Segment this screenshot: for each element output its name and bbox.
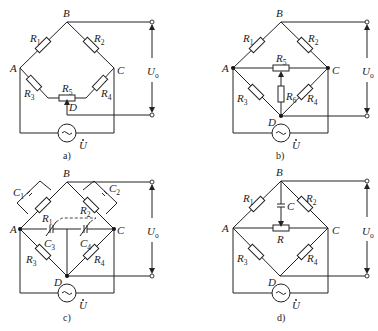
svg-text:R3: R3 (236, 92, 248, 107)
potentiometer-r (273, 225, 289, 231)
svg-text:C3: C3 (44, 237, 55, 252)
svg-text:R6: R6 (285, 90, 297, 105)
svg-text:C1: C1 (13, 186, 24, 201)
svg-text:A: A (221, 222, 229, 234)
svg-text:D: D (53, 276, 62, 288)
svg-text:B: B (276, 7, 283, 19)
svg-text:R1: R1 (242, 192, 254, 207)
node-a-label: A (9, 62, 17, 74)
panel-d: B A C D R1 R2 R3 R4 R C Uo U d) (221, 166, 374, 324)
node-b-label: B (63, 7, 70, 19)
svg-text:D: D (267, 276, 276, 288)
svg-text:C: C (332, 224, 340, 236)
svg-text:R3: R3 (236, 252, 248, 267)
svg-text:B: B (276, 166, 283, 178)
svg-text:C2: C2 (109, 182, 120, 197)
panel-b: B A C D R1 R2 R3 R4 R5 R6 Uo U b) (221, 7, 374, 162)
node-c-label: C (117, 64, 125, 76)
svg-text:D: D (267, 116, 276, 128)
caption-d: d) (277, 312, 285, 324)
panel-c: B A C D R1 R2 R3 R4 C1 C2 C3 C4 Uo U c) (9, 167, 159, 324)
svg-text:U: U (292, 299, 301, 311)
svg-text:U: U (292, 139, 301, 151)
svg-text:C: C (117, 224, 125, 236)
svg-text:Uo: Uo (362, 225, 374, 240)
svg-text:R3: R3 (25, 253, 37, 268)
svg-text:U: U (79, 139, 88, 151)
svg-text:Uo: Uo (362, 65, 374, 80)
svg-text:R4: R4 (93, 253, 105, 268)
svg-text:R1: R1 (41, 212, 53, 227)
output-terminal-top (150, 20, 154, 24)
svg-text:R4: R4 (306, 92, 318, 107)
svg-text:A: A (221, 62, 229, 74)
bridge-circuits-figure: B A C D R1 R2 R3 R4 R5 Uo U a) (0, 0, 378, 331)
caption-b: b) (276, 150, 284, 162)
svg-text:R1: R1 (242, 32, 254, 47)
svg-text:R1: R1 (29, 32, 41, 47)
svg-text:R: R (276, 233, 284, 245)
node-d-label: D (68, 101, 77, 113)
svg-text:R3: R3 (23, 87, 35, 102)
panel-a: B A C D R1 R2 R3 R4 R5 Uo U a) (9, 7, 159, 162)
svg-text:A: A (9, 223, 17, 235)
svg-text:C: C (287, 200, 295, 212)
svg-text:Uo: Uo (147, 225, 159, 240)
svg-text:B: B (63, 167, 70, 179)
svg-text:C4: C4 (80, 237, 91, 252)
svg-text:C: C (332, 64, 340, 76)
caption-a: a) (63, 150, 71, 162)
potentiometer-r5 (273, 65, 289, 71)
caption-c: c) (63, 312, 71, 324)
output-terminal-bottom (150, 113, 154, 117)
resistor-r6 (278, 86, 284, 102)
svg-text:Uo: Uo (147, 65, 159, 80)
svg-text:U: U (79, 299, 88, 311)
svg-text:R4: R4 (306, 252, 318, 267)
svg-text:R4: R4 (100, 87, 112, 102)
